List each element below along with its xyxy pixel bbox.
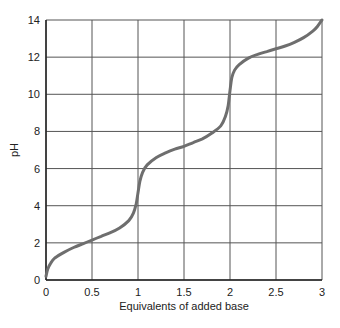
x-tick-label: 1.5 bbox=[176, 286, 191, 298]
y-tick-label: 0 bbox=[34, 274, 40, 286]
y-tick-label: 6 bbox=[34, 163, 40, 175]
x-tick-label: 2.5 bbox=[268, 286, 283, 298]
y-tick-label: 12 bbox=[28, 51, 40, 63]
y-tick-label: 8 bbox=[34, 125, 40, 137]
y-tick-label: 2 bbox=[34, 237, 40, 249]
titration-chart: 00.511.522.53 02468101214 Equivalents of… bbox=[0, 0, 340, 328]
y-tick-labels: 02468101214 bbox=[28, 14, 40, 286]
x-tick-labels: 00.511.522.53 bbox=[43, 286, 325, 298]
y-axis-label: pH bbox=[8, 143, 20, 157]
x-tick-label: 1 bbox=[135, 286, 141, 298]
y-tick-label: 14 bbox=[28, 14, 40, 26]
x-tick-label: 3 bbox=[319, 286, 325, 298]
x-tick-label: 2 bbox=[227, 286, 233, 298]
x-axis-label: Equivalents of added base bbox=[119, 300, 249, 312]
x-tick-label: 0 bbox=[43, 286, 49, 298]
x-tick-label: 0.5 bbox=[84, 286, 99, 298]
y-tick-label: 10 bbox=[28, 88, 40, 100]
y-tick-label: 4 bbox=[34, 200, 40, 212]
